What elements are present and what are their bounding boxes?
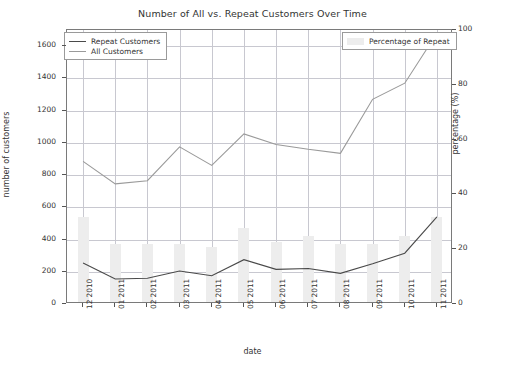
legend-item-all-customers: All Customers — [69, 46, 160, 56]
y-axis-left-tick-label: 1200 — [22, 106, 56, 114]
x-axis-tick — [339, 303, 340, 307]
x-axis-tick-label: 10 2011 — [407, 279, 416, 309]
y-axis-left-tick — [62, 239, 66, 240]
line-repeat-customers — [83, 217, 437, 279]
y-axis-left-tick-label: 1000 — [22, 138, 56, 146]
x-axis-tick-label: 11 2011 — [439, 279, 448, 309]
y-axis-right-tick-label: 60 — [458, 135, 488, 143]
x-axis-tick — [372, 303, 373, 307]
x-axis-tick — [307, 303, 308, 307]
line-series-layer — [67, 30, 453, 304]
x-axis-tick-label: 04 2011 — [214, 279, 223, 309]
y-axis-right-tick — [452, 29, 456, 30]
y-axis-left-tick-label: 1400 — [22, 73, 56, 81]
y-axis-right-tick-label: 80 — [458, 80, 488, 88]
chart-figure: Number of All vs. Repeat Customers Over … — [0, 0, 505, 370]
y-axis-left-tick — [62, 45, 66, 46]
y-axis-right-tick — [452, 303, 456, 304]
y-axis-left-tick — [62, 77, 66, 78]
y-axis-left-title: number of customers — [2, 112, 11, 198]
x-axis-tick-label: 08 2011 — [342, 279, 351, 309]
x-axis-tick-label: 12 2010 — [85, 279, 94, 309]
chart-title: Number of All vs. Repeat Customers Over … — [0, 8, 505, 19]
y-axis-left-tick-label: 200 — [22, 267, 56, 275]
y-axis-right-tick-label: 40 — [458, 189, 488, 197]
plot-area — [66, 29, 452, 303]
x-axis-tick-label: 09 2011 — [375, 279, 384, 309]
y-axis-left-tick-label: 400 — [22, 235, 56, 243]
bar-swatch-icon — [347, 38, 364, 45]
x-axis-tick-label: 06 2011 — [278, 279, 287, 309]
line-swatch-icon — [69, 51, 86, 52]
y-axis-right-tick — [452, 193, 456, 194]
x-axis-tick — [146, 303, 147, 307]
y-axis-left-tick — [62, 142, 66, 143]
x-axis-title: date — [0, 347, 505, 356]
legend-bars: Percentage of Repeat — [342, 32, 457, 50]
x-axis-tick — [179, 303, 180, 307]
y-axis-left-tick — [62, 303, 66, 304]
y-axis-left-tick-label: 800 — [22, 170, 56, 178]
y-axis-left-tick — [62, 206, 66, 207]
y-axis-left-tick — [62, 174, 66, 175]
y-axis-right-tick — [452, 84, 456, 85]
x-axis-tick — [243, 303, 244, 307]
legend-label: Repeat Customers — [91, 37, 160, 46]
x-axis-tick — [82, 303, 83, 307]
x-axis-tick-label: 03 2011 — [182, 279, 191, 309]
y-axis-left-tick — [62, 271, 66, 272]
y-axis-left-tick-label: 1600 — [22, 41, 56, 49]
x-axis-tick-label: 07 2011 — [310, 279, 319, 309]
line-swatch-icon — [69, 41, 86, 42]
y-axis-right-tick-label: 0 — [458, 299, 488, 307]
x-axis-tick-label: 05 2011 — [246, 279, 255, 309]
y-axis-right-tick — [452, 139, 456, 140]
y-axis-right-title: percentage (%) — [451, 93, 460, 155]
legend-item-repeat-customers: Repeat Customers — [69, 36, 160, 46]
y-axis-left-tick-label: 600 — [22, 202, 56, 210]
y-axis-right-tick-label: 20 — [458, 244, 488, 252]
x-axis-tick — [114, 303, 115, 307]
y-axis-left-tick — [62, 110, 66, 111]
y-axis-left-tick-label: 0 — [22, 299, 56, 307]
y-axis-right-tick-label: 100 — [458, 25, 488, 33]
legend-label: Percentage of Repeat — [369, 37, 450, 46]
legend-lines: Repeat Customers All Customers — [64, 32, 167, 60]
y-axis-right-tick — [452, 248, 456, 249]
x-axis-tick — [211, 303, 212, 307]
legend-item-percentage-of-repeat: Percentage of Repeat — [347, 36, 450, 46]
x-axis-tick-label: 02 2011 — [149, 279, 158, 309]
legend-label: All Customers — [91, 47, 143, 56]
x-axis-tick-label: 01 2011 — [117, 279, 126, 309]
x-axis-tick — [404, 303, 405, 307]
x-axis-tick — [436, 303, 437, 307]
x-axis-tick — [275, 303, 276, 307]
